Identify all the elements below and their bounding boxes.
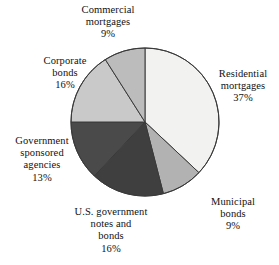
pie-label-line1: U.S. government [52,206,170,218]
pie-label-line1: Commercial [60,4,156,16]
pie-label-line3: bonds [52,230,170,242]
pie-label-line1: Residential [207,68,279,80]
pie-label-corporate-bonds: Corporate bonds 16% [28,55,102,92]
pie-label-line2: mortgages [60,16,156,28]
pie-label-line2: bonds [28,67,102,79]
pie-label-line2: mortgages [207,80,279,92]
pie-label-value: 16% [52,243,170,255]
pie-label-value: 9% [60,28,156,40]
pie-label-line2: notes and [52,218,170,230]
pie-label-commercial-mortgages: Commercial mortgages 9% [60,4,156,41]
pie-label-value: 13% [2,172,82,184]
pie-label-line1: Corporate [28,55,102,67]
pie-label-line2: sponsored [2,147,82,159]
pie-label-residential-mortgages: Residential mortgages 37% [207,68,279,105]
pie-label-line2: bonds [196,208,270,220]
pie-label-value: 37% [207,92,279,104]
pie-label-value: 16% [28,79,102,91]
pie-label-us-government-notes-and-bonds: U.S. government notes and bonds 16% [52,206,170,255]
pie-chart: Commercial mortgages 9% Residential mort… [0,0,279,265]
pie-label-line3: agencies [2,159,82,171]
pie-label-line1: Government [2,135,82,147]
pie-label-municipal-bonds: Municipal bonds 9% [196,196,270,233]
pie-label-line1: Municipal [196,196,270,208]
pie-label-value: 9% [196,220,270,232]
pie-label-government-sponsored-agencies: Government sponsored agencies 13% [2,135,82,184]
